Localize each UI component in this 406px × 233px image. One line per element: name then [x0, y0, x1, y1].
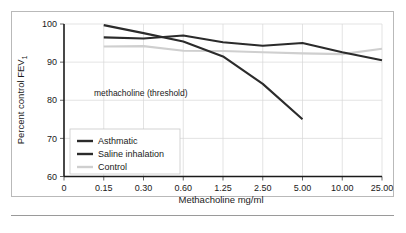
x-tick-label: 1.25	[214, 183, 232, 193]
y-tick-label: 80	[47, 95, 57, 105]
y-tick-label: 60	[47, 172, 57, 182]
threshold-annotation: methacholine (threshold)	[94, 88, 188, 98]
data-series-group	[104, 25, 382, 119]
y-tick-labels-group: 60708090100	[42, 19, 57, 182]
x-tick-label: 0.30	[135, 183, 153, 193]
legend-label[interactable]: Saline inhalation	[98, 149, 164, 159]
series-line-control	[104, 46, 382, 54]
bottom-divider	[11, 215, 394, 216]
series-line-asthmatic	[104, 35, 382, 60]
y-tick-label: 100	[42, 19, 57, 29]
y-tick-label: 70	[47, 134, 57, 144]
x-tick-label: 10.00	[331, 183, 354, 193]
line-chart: 60708090100 00.150.300.601.252.505.0010.…	[0, 0, 406, 233]
figure-container: 60708090100 00.150.300.601.252.505.0010.…	[0, 0, 406, 233]
y-axis-title: Percent control FEV1	[15, 55, 28, 144]
x-tick-label: 0.15	[95, 183, 113, 193]
legend-label[interactable]: Asthmatic	[98, 136, 138, 146]
x-tick-label: 0.60	[174, 183, 192, 193]
x-tick-label: 25.00	[371, 183, 394, 193]
x-axis-title: Methacholine mg/ml	[178, 194, 263, 205]
y-tick-label: 90	[47, 57, 57, 67]
y-axis-title-main: Percent control FEV	[15, 59, 26, 145]
x-tick-labels-group: 00.150.300.601.252.505.0010.0025.00	[61, 183, 393, 193]
y-axis-title-subscript: 1	[21, 55, 28, 59]
x-tick-label: 5.00	[294, 183, 312, 193]
x-tick-label: 0	[61, 183, 66, 193]
legend-label[interactable]: Control	[98, 162, 127, 172]
legend[interactable]: AsthmaticSaline inhalationControl	[70, 129, 180, 174]
x-tick-label: 2.50	[254, 183, 272, 193]
